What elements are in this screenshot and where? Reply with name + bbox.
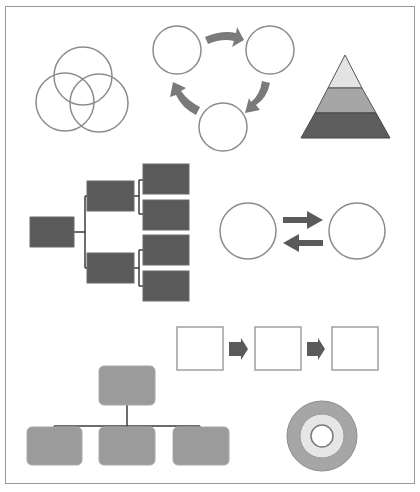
hierarchy-leaf-box-2 <box>143 200 189 230</box>
process-flow-diagram[interactable] <box>177 327 378 370</box>
cycle-arrow-up-icon <box>170 82 200 115</box>
diagram-gallery <box>0 0 420 492</box>
org-chart-connectors <box>54 405 200 430</box>
cycle-node-2 <box>246 26 294 74</box>
target-diagram[interactable] <box>287 401 357 471</box>
org-chart-top-box <box>99 366 155 405</box>
hierarchy-leaf-box-3 <box>143 235 189 265</box>
process-arrow-1-icon <box>229 338 248 360</box>
cycle-diagram[interactable] <box>153 26 294 151</box>
org-chart-child-box-2 <box>99 427 155 465</box>
target-ring-inner <box>311 425 333 447</box>
cycle-node-1 <box>153 26 201 74</box>
horizontal-hierarchy-diagram[interactable] <box>30 164 189 301</box>
venn-circle-right <box>70 74 128 132</box>
org-chart-child-box-3 <box>173 427 229 465</box>
process-step-3 <box>332 327 378 370</box>
pyramid-level-bottom <box>301 113 390 138</box>
hierarchy-leaf-box-4 <box>143 271 189 301</box>
hierarchy-root-box <box>30 217 74 247</box>
process-step-1 <box>177 327 223 370</box>
hierarchy-branch-box-1 <box>87 181 134 211</box>
org-chart-child-box-1 <box>27 427 82 465</box>
bidirectional-diagram[interactable] <box>220 203 385 259</box>
cycle-arrow-down-icon <box>245 81 270 113</box>
process-step-2 <box>255 327 301 370</box>
cycle-node-3 <box>199 103 247 151</box>
org-chart-diagram[interactable] <box>27 366 229 465</box>
bidirectional-node-right <box>329 203 385 259</box>
pyramid-level-top <box>328 55 362 88</box>
venn-circle-top <box>54 47 112 105</box>
hierarchy-branch-box-2 <box>87 253 134 283</box>
pyramid-diagram[interactable] <box>301 55 390 138</box>
venn-circle-left <box>36 73 94 131</box>
hierarchy-leaf-box-1 <box>143 164 189 194</box>
process-arrow-2-icon <box>307 338 325 360</box>
arrow-left-icon <box>283 234 323 252</box>
cycle-arrow-right-icon <box>205 27 244 47</box>
bidirectional-node-left <box>220 203 276 259</box>
arrow-right-icon <box>283 211 323 229</box>
venn-diagram[interactable] <box>36 47 128 132</box>
pyramid-level-middle <box>315 88 376 113</box>
